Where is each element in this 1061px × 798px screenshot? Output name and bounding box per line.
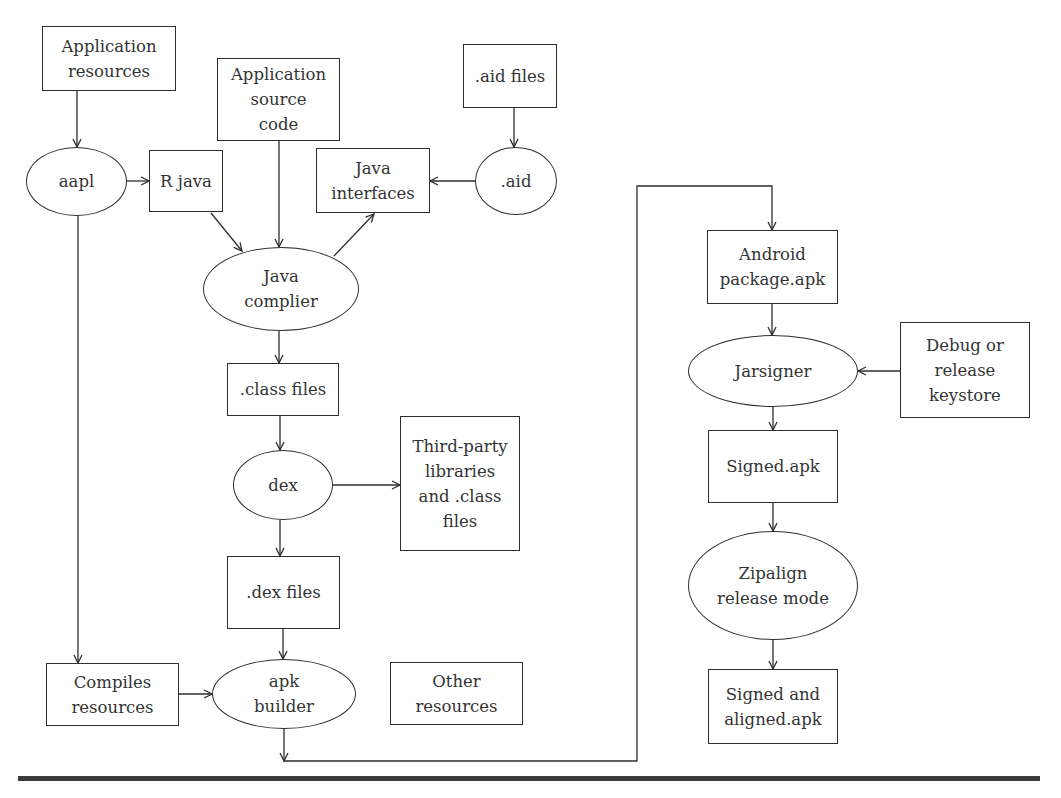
node-signed-apk: Signed.apk (708, 430, 838, 503)
node-app-source-code: Application source code (217, 58, 340, 141)
node-label: Jarsigner (735, 359, 812, 384)
node-signed-aligned-apk: Signed and aligned.apk (708, 669, 838, 744)
node-java-interfaces: Java interfaces (316, 148, 430, 213)
node-label: Third-party libraries and .class files (412, 434, 507, 534)
node-dex: dex (233, 450, 333, 520)
node-label: Java interfaces (331, 156, 415, 206)
node-apk-builder: apk builder (212, 659, 356, 729)
node-label: .dex files (246, 580, 321, 605)
bottom-rule-divider (18, 776, 1040, 781)
node-label: .aid (501, 169, 532, 194)
node-aid: .aid (475, 147, 557, 215)
node-label: apk builder (254, 669, 314, 719)
node-label: Android package.apk (720, 242, 825, 292)
node-label: Compiles resources (71, 670, 153, 720)
node-debug-release-keystore: Debug or release keystore (900, 322, 1030, 418)
node-label: .class files (240, 377, 326, 402)
node-android-package: Android package.apk (707, 230, 838, 304)
node-r-java: R java (149, 150, 223, 212)
node-class-files: .class files (227, 363, 339, 416)
node-label: dex (268, 473, 298, 498)
node-label: Debug or release keystore (926, 333, 1004, 408)
node-dex-files: .dex files (227, 556, 340, 629)
node-compiles-resources: Compiles resources (46, 663, 179, 726)
node-java-compiler: Java complier (203, 247, 359, 331)
node-aid-files: .aid files (463, 44, 557, 108)
node-other-resources: Other resources (390, 662, 523, 725)
node-label: Application source code (231, 62, 326, 137)
node-label: aapl (59, 169, 95, 194)
node-label: Application resources (61, 34, 156, 84)
node-label: Signed and aligned.apk (724, 682, 822, 732)
node-aapl: aapl (26, 147, 127, 216)
node-third-party: Third-party libraries and .class files (400, 416, 520, 551)
node-label: .aid files (475, 64, 546, 89)
arrow-apk-builder-to-android-package (284, 186, 772, 761)
node-label: Signed.apk (726, 454, 820, 479)
node-zipalign: Zipalign release mode (688, 531, 858, 640)
diagram-canvas: Application resourcesaaplR javaApplicati… (0, 0, 1061, 798)
node-label: Zipalign release mode (717, 561, 829, 611)
arrow-r-java-to-java-compiler (211, 213, 242, 251)
arrow-java-compiler-to-java-interfaces (334, 214, 374, 256)
node-label: Java complier (244, 264, 318, 314)
node-label: R java (160, 169, 212, 194)
node-app-resources: Application resources (42, 26, 176, 91)
node-jarsigner: Jarsigner (688, 335, 858, 407)
node-label: Other resources (415, 669, 497, 719)
